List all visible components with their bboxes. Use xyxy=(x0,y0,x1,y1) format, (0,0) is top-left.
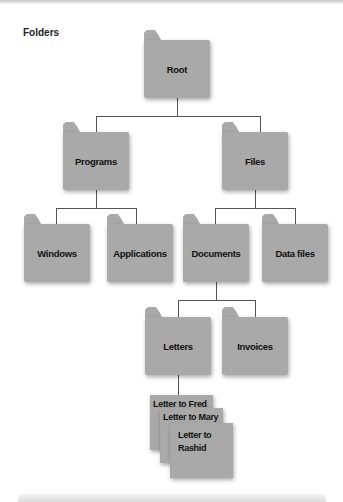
top-edge xyxy=(0,0,343,4)
folder-files[interactable]: Files xyxy=(222,132,288,190)
folder-letters[interactable]: Letters xyxy=(145,317,211,375)
folder-label: Invoices xyxy=(237,341,273,352)
folder-label: Windows xyxy=(37,248,77,259)
folder-programs[interactable]: Programs xyxy=(63,132,129,190)
connector-root-down xyxy=(177,97,178,117)
connector-to-windows xyxy=(56,208,57,224)
folder-data-files[interactable]: Data files xyxy=(262,224,328,282)
connector-to-files xyxy=(260,116,261,132)
folder-label: Files xyxy=(245,156,265,167)
connector-programs-down xyxy=(96,190,97,209)
connector-to-data-files xyxy=(295,208,296,224)
folder-label: Root xyxy=(167,64,187,75)
connector-letters-down xyxy=(178,374,179,395)
document-letter-rashid[interactable]: Letter to Rashid xyxy=(170,423,233,478)
folder-label: Programs xyxy=(75,156,117,167)
connector-documents-down xyxy=(216,281,217,301)
diagram-title: Folders xyxy=(23,27,59,38)
connector-programs-horizontal xyxy=(56,208,136,209)
connector-to-programs xyxy=(96,116,97,132)
folder-windows[interactable]: Windows xyxy=(24,224,90,282)
connector-to-documents xyxy=(215,208,216,224)
folder-invoices[interactable]: Invoices xyxy=(222,317,288,375)
connector-to-invoices xyxy=(255,300,256,317)
folder-root[interactable]: Root xyxy=(144,40,210,98)
connector-files-down xyxy=(255,190,256,209)
folder-applications[interactable]: Applications xyxy=(107,224,173,282)
bottom-edge xyxy=(18,494,326,502)
folder-label: Data files xyxy=(275,248,314,259)
connector-root-horizontal xyxy=(96,116,260,117)
document-label: Letter to Rashid xyxy=(178,429,223,455)
folder-documents[interactable]: Documents xyxy=(183,224,249,282)
folder-label: Applications xyxy=(113,248,166,259)
connector-documents-horizontal xyxy=(178,300,255,301)
connector-to-letters xyxy=(178,300,179,317)
connector-to-applications xyxy=(136,208,137,224)
folder-label: Letters xyxy=(163,341,193,352)
folder-label: Documents xyxy=(191,248,240,259)
connector-files-horizontal xyxy=(215,208,295,209)
